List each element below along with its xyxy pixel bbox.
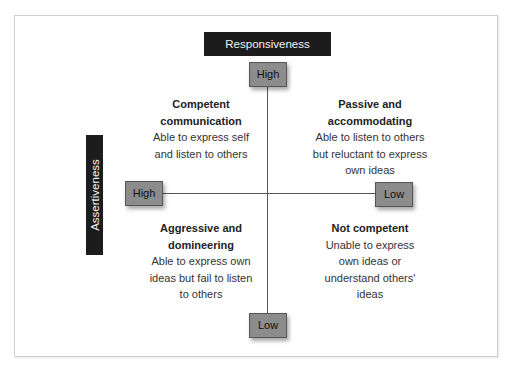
quadrant-description: ideas but fail to listen xyxy=(121,270,281,287)
quadrant-bottom-left: Aggressive and domineering Able to expre… xyxy=(121,220,281,303)
horizontal-axis-line xyxy=(161,193,375,194)
quadrant-description: Able to express own xyxy=(121,253,281,270)
left-pole-high: High xyxy=(125,181,163,206)
bottom-pole-low: Low xyxy=(249,313,287,338)
quadrant-description: understand others' xyxy=(270,270,470,287)
quadrant-top-left: Competent communication Able to express … xyxy=(121,96,281,162)
assertiveness-axis-title: Assertiveness xyxy=(86,135,103,255)
quadrant-description: Able to listen to others xyxy=(265,129,475,146)
quadrant-title: domineering xyxy=(121,237,281,254)
quadrant-title: Competent xyxy=(121,96,281,113)
responsiveness-axis-title: Responsiveness xyxy=(204,32,331,56)
quadrant-title: communication xyxy=(121,113,281,130)
quadrant-description: Able to express self xyxy=(121,129,281,146)
quadrant-description: but reluctant to express xyxy=(265,146,475,163)
quadrant-description: own ideas or xyxy=(270,253,470,270)
top-pole-high: High xyxy=(249,62,287,87)
quadrant-title: Passive and xyxy=(265,96,475,113)
quadrant-description: own ideas xyxy=(265,162,475,179)
quadrant-description: to others xyxy=(121,286,281,303)
quadrant-description: ideas xyxy=(270,286,470,303)
quadrant-title: Not competent xyxy=(270,220,470,237)
quadrant-description: Unable to express xyxy=(270,237,470,254)
quadrant-description: and listen to others xyxy=(121,146,281,163)
quadrant-title: Aggressive and xyxy=(121,220,281,237)
assertiveness-axis-label: Assertiveness xyxy=(89,159,101,231)
quadrant-bottom-right: Not competent Unable to express own idea… xyxy=(270,220,470,303)
quadrant-title: accommodating xyxy=(265,113,475,130)
quadrant-top-right: Passive and accommodating Able to listen… xyxy=(265,96,475,179)
right-pole-low: Low xyxy=(375,182,413,207)
